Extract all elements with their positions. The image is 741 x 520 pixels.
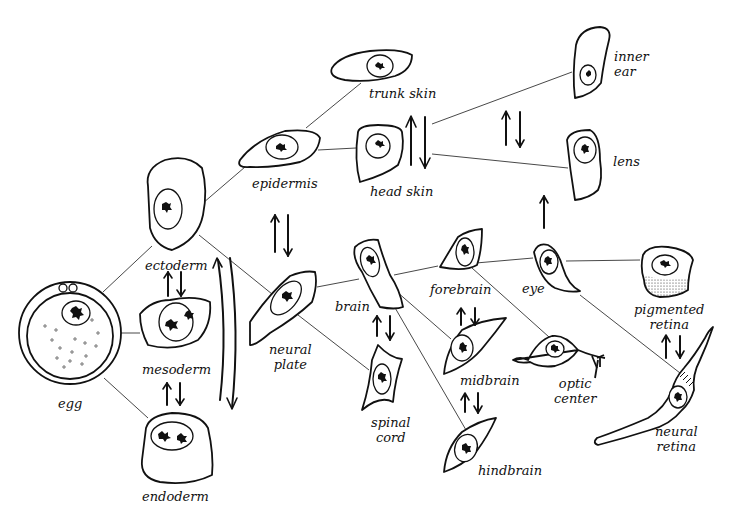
label-neural-plate-line2: plate <box>269 357 312 372</box>
inner-ear-cell <box>574 27 610 98</box>
label-inner-ear: inner ear <box>614 49 649 79</box>
label-head-skin: head skin <box>370 184 433 199</box>
label-inner-ear-line1: inner <box>614 49 649 64</box>
label-spinal-cord-line1: spinal <box>371 415 410 430</box>
label-spinal-cord: spinal cord <box>371 415 410 445</box>
label-spinal-cord-line2: cord <box>371 430 410 445</box>
label-egg: egg <box>58 396 82 411</box>
egg-cell <box>19 282 121 384</box>
epidermis-cell <box>239 130 320 167</box>
label-epidermis: epidermis <box>252 176 318 191</box>
endoderm-cell <box>142 413 213 483</box>
label-midbrain: midbrain <box>460 373 520 388</box>
label-hindbrain: hindbrain <box>478 463 542 478</box>
label-neural-plate-line1: neural <box>269 342 312 357</box>
trunk-skin-cell <box>331 50 412 81</box>
label-lens: lens <box>613 154 640 169</box>
arrow-ectoderm-mesoderm <box>164 272 185 296</box>
label-pigmented-retina-line1: pigmented <box>634 302 704 317</box>
arrow-pigmented-neural-retina <box>662 335 684 358</box>
label-eye: eye <box>522 281 545 296</box>
arrow-head-skin <box>406 116 430 168</box>
arrow-mesoderm-endoderm <box>163 383 184 405</box>
label-inner-ear-line2: ear <box>614 64 649 79</box>
neural-plate-cell <box>250 272 316 346</box>
arrow-forebrain-midbrain <box>457 308 479 325</box>
forebrain-cell <box>440 229 482 269</box>
label-neural-retina: neural retina <box>655 424 698 454</box>
lens-cell <box>567 130 601 200</box>
label-neural-plate: neural plate <box>269 342 312 372</box>
label-pigmented-retina-line2: retina <box>634 317 704 332</box>
ectoderm-cell <box>148 158 206 250</box>
label-mesoderm: mesoderm <box>142 362 211 377</box>
label-neural-retina-line1: neural <box>655 424 698 439</box>
label-optic-center-line2: center <box>554 391 596 406</box>
label-endoderm: endoderm <box>142 489 209 504</box>
arrow-midbrain-hindbrain <box>461 393 482 413</box>
arrow-epidermis-neural-plate <box>271 215 292 256</box>
arrow-eye-lens <box>540 196 548 228</box>
label-neural-retina-line2: retina <box>655 439 698 454</box>
label-forebrain: forebrain <box>430 282 491 297</box>
optic-center-cell <box>513 336 605 378</box>
label-pigmented-retina: pigmented retina <box>634 302 704 332</box>
arrow-ectoderm-endoderm-long <box>213 258 237 409</box>
arrow-brain-spinal-cord <box>373 316 394 340</box>
pigmented-retina-cell <box>642 247 693 297</box>
spinal-cord-cell <box>362 345 402 410</box>
arrow-inner-ear-lens <box>502 111 524 147</box>
label-ectoderm: ectoderm <box>145 258 208 273</box>
interaction-arrows <box>163 111 684 413</box>
mesoderm-cell <box>140 298 210 348</box>
label-optic-center: optic center <box>554 376 596 406</box>
label-brain: brain <box>335 299 370 314</box>
label-optic-center-line1: optic <box>554 376 596 391</box>
label-trunk-skin: trunk skin <box>369 86 436 101</box>
head-skin-cell <box>356 125 403 182</box>
midbrain-cell <box>444 318 506 374</box>
